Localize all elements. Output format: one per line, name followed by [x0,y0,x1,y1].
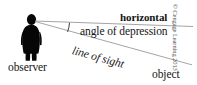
label-observer: observer [8,62,47,74]
object-end-marker [187,64,192,65]
label-object: object [152,69,180,81]
angle-of-depression-diagram: horizontal angle of depression line of s… [0,0,197,85]
label-angle-of-depression: angle of depression [80,26,168,38]
label-horizontal: horizontal [120,12,167,23]
copyright-notice: © Cengage Learning 2013 [172,4,179,71]
